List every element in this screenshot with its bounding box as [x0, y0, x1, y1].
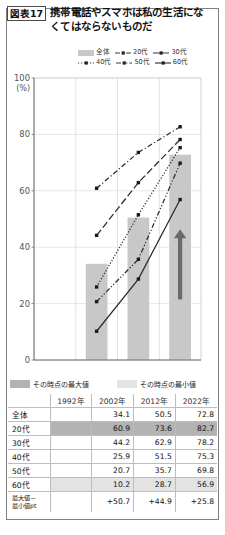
legend-item-40代: 40代 — [78, 58, 111, 67]
table-cell: 60.9 — [92, 422, 134, 436]
table-cell: 50.5 — [134, 408, 176, 422]
y-axis-unit-label: (%) — [16, 84, 30, 93]
series-marker-60代 — [178, 198, 181, 201]
series-marker-40代 — [137, 213, 140, 216]
y-axis-tick-label: 60 — [19, 186, 30, 196]
series-marker-30代 — [95, 234, 98, 237]
y-axis-tick-label: 0 — [25, 355, 30, 365]
y-axis-tick-label: 20 — [19, 299, 30, 309]
series-marker-40代 — [178, 146, 181, 149]
table-row-label: 最大値－最小値pt — [8, 492, 50, 512]
legend-item-label: 50代 — [134, 58, 149, 67]
table-cell: 28.7 — [134, 478, 176, 492]
table-row-label: 60代 — [8, 478, 50, 492]
table-row: 40代25.951.575.3 — [8, 450, 217, 464]
table-cell — [50, 478, 92, 492]
table-column-header: 1992年 — [50, 394, 92, 408]
table-row: 全体34.150.572.8 — [8, 408, 217, 422]
max-color-swatch — [10, 380, 30, 388]
table-row-label: 30代 — [8, 436, 50, 450]
figure-title-row: 図表17 携帯電話やスマホは私の生活になくてはならないものだ — [7, 6, 205, 33]
line-chart: 020406080100(%) — [8, 70, 208, 376]
series-marker-50代 — [95, 300, 98, 303]
table-cell: 75.3 — [175, 450, 217, 464]
table-cell: 78.2 — [175, 436, 217, 450]
legend-line-dash-dot — [115, 50, 131, 56]
table-row: 20代60.973.682.7 — [8, 422, 217, 436]
key-max-label: その時点の最大値 — [33, 379, 89, 389]
legend-bar-swatch — [78, 50, 94, 56]
legend-item-60代: 60代 — [155, 58, 188, 67]
table-cell: 51.5 — [134, 450, 176, 464]
min-color-swatch — [117, 380, 137, 388]
table-cell: 20.7 — [92, 464, 134, 478]
key-max: その時点の最大値 — [10, 379, 89, 389]
legend-item-20代: 20代 — [115, 48, 148, 57]
table-cell: 10.2 — [92, 478, 134, 492]
table-cell: 56.9 — [175, 478, 217, 492]
series-marker-20代 — [95, 187, 98, 190]
table-cell: +44.9 — [134, 492, 176, 512]
table-row: 最大値－最小値pt+50.7+44.9+25.8 — [8, 492, 217, 512]
series-marker-30代 — [178, 138, 181, 141]
legend-line-solid — [155, 60, 171, 66]
table-cell: 73.6 — [134, 422, 176, 436]
table-header: 1992年2002年2012年2022年 — [8, 394, 217, 408]
table-cell: 72.8 — [175, 408, 217, 422]
table-cell — [50, 436, 92, 450]
series-marker-50代 — [178, 161, 181, 164]
table-color-key: その時点の最大値 その時点の最小値 — [10, 379, 215, 389]
bar-overall-2002 — [86, 264, 108, 360]
series-marker-60代 — [95, 330, 98, 333]
legend-item-30代: 30代 — [153, 48, 186, 57]
table-cell — [50, 450, 92, 464]
series-marker-20代 — [137, 151, 140, 154]
legend-item-50代: 50代 — [116, 58, 149, 67]
legend-line-long-dash — [153, 50, 169, 56]
series-marker-50代 — [137, 258, 140, 261]
legend-item-label: 全体 — [96, 48, 110, 57]
legend-item-全体: 全体 — [78, 48, 110, 57]
figure-number-badge: 図表17 — [7, 6, 46, 21]
table-header-row: 1992年2002年2012年2022年 — [8, 394, 217, 408]
key-min-label: その時点の最小値 — [140, 379, 196, 389]
legend-item-label: 40代 — [96, 58, 111, 67]
table-cell — [50, 464, 92, 478]
table-row-label: 全体 — [8, 408, 50, 422]
table-cell: 35.7 — [134, 464, 176, 478]
table-column-header: 2022年 — [175, 394, 217, 408]
table-cell — [50, 408, 92, 422]
legend-item-label: 60代 — [173, 58, 188, 67]
legend-line-dotted — [78, 60, 94, 66]
chart-legend: 全体20代30代40代50代60代 — [78, 48, 210, 67]
y-axis-tick-label: 80 — [19, 129, 30, 139]
y-axis-tick-label: 100 — [14, 73, 30, 83]
table-row: 30代44.262.978.2 — [8, 436, 217, 450]
series-marker-60代 — [137, 277, 140, 280]
legend-item-label: 20代 — [133, 48, 148, 57]
table-cell: 82.7 — [175, 422, 217, 436]
table-row-label: 50代 — [8, 464, 50, 478]
table-column-header: 2012年 — [134, 394, 176, 408]
table-cell: +25.8 — [175, 492, 217, 512]
table-row: 50代20.735.769.8 — [8, 464, 217, 478]
table-cell: +50.7 — [92, 492, 134, 512]
figure-card: 図表17 携帯電話やスマホは私の生活になくてはならないものだ 全体20代30代4… — [0, 0, 225, 535]
table-cell: 62.9 — [134, 436, 176, 450]
chart-plot-area: 020406080100(%) — [8, 70, 208, 376]
series-marker-30代 — [137, 181, 140, 184]
table-cell: 44.2 — [92, 436, 134, 450]
table-row-label: 40代 — [8, 450, 50, 464]
table-cell — [50, 492, 92, 512]
data-table: 1992年2002年2012年2022年 全体34.150.572.820代60… — [8, 394, 217, 512]
key-min: その時点の最小値 — [117, 379, 196, 389]
table-corner-cell — [8, 394, 50, 408]
table-cell: 69.8 — [175, 464, 217, 478]
table-cell: 25.9 — [92, 450, 134, 464]
table-column-header: 2002年 — [92, 394, 134, 408]
table-cell: 34.1 — [92, 408, 134, 422]
y-axis-tick-label: 40 — [19, 242, 30, 252]
table-cell — [50, 422, 92, 436]
series-marker-20代 — [178, 125, 181, 128]
page-title: 携帯電話やスマホは私の生活になくてはならないものだ — [50, 6, 205, 33]
